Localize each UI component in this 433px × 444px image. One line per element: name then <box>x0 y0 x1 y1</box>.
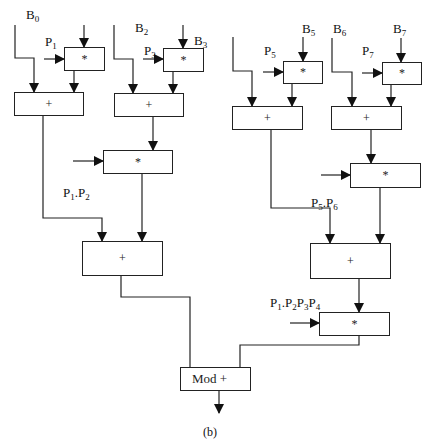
operator-label: + <box>146 98 153 113</box>
label-p5-p6: P5.P6 <box>311 196 338 212</box>
adder-box-2: + <box>114 93 184 117</box>
label-p1: P1 <box>45 35 57 51</box>
wire-b0 <box>15 25 34 92</box>
operator-label: * <box>300 65 306 80</box>
operator-label: * <box>181 53 187 68</box>
operator-label: * <box>399 66 405 81</box>
operator-label: + <box>264 111 271 126</box>
operator-label: + <box>119 251 126 266</box>
wire-b4 <box>233 37 252 106</box>
label-p7: P7 <box>362 44 374 60</box>
adder-box-5: + <box>82 241 163 276</box>
wire-add5-mod <box>121 275 190 367</box>
operator-label: * <box>82 52 88 67</box>
wire-b6 <box>332 38 352 106</box>
label-b5: B5 <box>302 22 315 38</box>
wire-add1-add5 <box>43 116 102 241</box>
operator-label: + <box>363 111 370 126</box>
multiplier-box-1: * <box>64 47 105 71</box>
multiplier-box-7: * <box>319 312 390 336</box>
operator-label: Mod + <box>192 371 227 387</box>
wire-mul7-mod <box>240 335 359 367</box>
operator-label: * <box>383 168 389 183</box>
label-b2: B2 <box>135 21 148 37</box>
label-b6: B6 <box>333 22 346 38</box>
diagram-canvas: * + * + * + * + * + * + * Mod + B0 P1 B2… <box>0 0 433 444</box>
multiplier-box-5: * <box>382 62 422 85</box>
label-p1-p2: P1.P2 <box>63 186 90 202</box>
label-b7: B7 <box>393 22 406 38</box>
label-p5: P5 <box>264 44 276 60</box>
label-p3: P3 <box>144 44 156 60</box>
figure-caption: (b) <box>203 426 217 438</box>
multiplier-box-3: * <box>103 150 173 174</box>
mod-adder-box: Mod + <box>180 367 251 391</box>
adder-box-4: + <box>331 106 402 130</box>
operator-label: * <box>352 317 358 332</box>
operator-label: + <box>46 97 53 112</box>
adder-box-6: + <box>310 243 391 279</box>
label-p1-p2-p3-p4: P1.P2P3P4 <box>270 296 320 312</box>
adder-box-3: + <box>232 106 303 130</box>
multiplier-box-6: * <box>350 163 421 188</box>
adder-box-1: + <box>14 92 84 116</box>
multiplier-box-2: * <box>163 48 204 72</box>
operator-label: * <box>135 155 141 170</box>
label-b0: B0 <box>26 8 39 24</box>
wire-add3-add6 <box>271 129 330 243</box>
label-b3: B3 <box>194 34 207 50</box>
operator-label: + <box>347 254 354 269</box>
wire-b2 <box>114 25 133 93</box>
multiplier-box-4: * <box>283 61 323 84</box>
